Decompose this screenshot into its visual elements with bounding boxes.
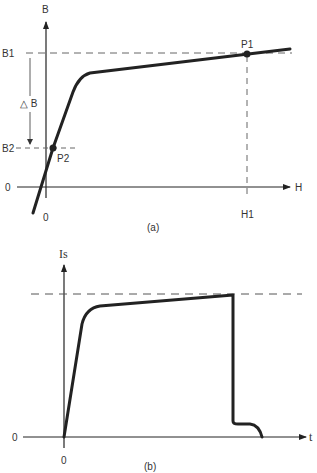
t-axis-label: t <box>309 430 313 444</box>
b-axis-label: B <box>42 4 49 15</box>
b1-label: B1 <box>2 48 15 59</box>
origin-x-label-b: 0 <box>61 455 67 466</box>
figure-b-current-time: Is t 0 0 (b) <box>12 247 313 472</box>
origin-y-label-b: 0 <box>12 432 18 443</box>
h-axis-label: H <box>295 182 302 193</box>
b2-label: B2 <box>2 143 15 154</box>
is-axis-label: Is <box>59 247 68 261</box>
diagram-canvas: B H B1 B2 △ B 0 0 H1 P1 P2 (a) Is t 0 0 … <box>0 0 317 473</box>
origin-y-label-a: 0 <box>5 182 11 193</box>
origin-x-label-a: 0 <box>43 212 49 223</box>
caption-a: (a) <box>147 222 159 233</box>
bh-curve <box>33 49 290 213</box>
figure-a-bh-curve: B H B1 B2 △ B 0 0 H1 P1 P2 (a) <box>2 4 302 233</box>
current-curve <box>64 295 262 437</box>
h1-label: H1 <box>241 209 254 220</box>
p1-label: P1 <box>241 39 254 50</box>
caption-b: (b) <box>144 461 156 472</box>
p2-label: P2 <box>57 153 70 164</box>
p1-point <box>244 51 251 58</box>
delta-b-label: △ B <box>20 98 38 109</box>
p2-point <box>50 145 57 152</box>
